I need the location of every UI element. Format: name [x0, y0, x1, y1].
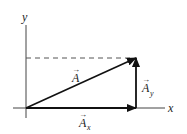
- svg-text:A: A: [78, 116, 87, 130]
- svg-text:y: y: [149, 89, 154, 98]
- vector-diagram: y x → A → A y → A x: [0, 0, 187, 134]
- vector-ay-label: → A y: [141, 75, 154, 98]
- x-axis-label: x: [167, 101, 174, 115]
- vector-ax-label: → A x: [78, 110, 91, 132]
- vector-a-arrow: [26, 58, 136, 108]
- vector-a-label: → A: [71, 65, 80, 85]
- svg-text:A: A: [71, 71, 80, 85]
- y-axis-label: y: [21, 10, 28, 24]
- svg-text:A: A: [141, 81, 150, 95]
- svg-text:x: x: [86, 123, 91, 132]
